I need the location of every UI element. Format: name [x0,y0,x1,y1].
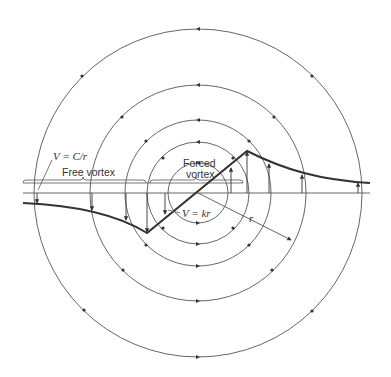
arrow-right-icon [196,299,200,303]
forced-vortex-formula-label: V = kr [182,207,211,219]
arrow-right-icon [196,242,200,246]
arrow-right-icon [196,221,200,225]
arrow-left-icon [196,140,200,144]
arrow-left-icon [196,118,200,122]
free-vortex-label: Free vortex [62,166,116,178]
arrow-left-icon [196,83,200,87]
radius-label: r [249,212,254,224]
radius-line [198,193,291,240]
free-vortex-formula-label: V = C/r [53,150,88,162]
vortex-diagram: V = C/r Free vortex Forced vortex V = kr… [0,0,391,377]
free-vortex-formula-leader [38,160,52,190]
arrow-right-icon [196,264,200,268]
forced-vortex-label-line2: vortex [186,168,215,180]
arrow-right-icon [196,355,200,359]
arrow-left-icon [196,27,200,31]
